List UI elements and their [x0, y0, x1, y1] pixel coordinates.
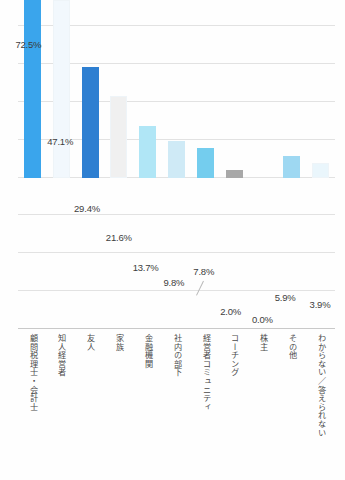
- value-label: 3.9%: [310, 300, 331, 310]
- gridline: [18, 214, 335, 215]
- bar: [53, 0, 70, 178]
- category-label: 友人: [85, 334, 94, 351]
- category-label: 株主: [258, 334, 267, 351]
- bar: [110, 96, 127, 178]
- leader-line-icon: [196, 281, 204, 296]
- bar: [283, 156, 300, 178]
- value-label: 5.9%: [275, 293, 296, 303]
- gridline: [18, 290, 335, 291]
- category-label: 経営者コミュニティ: [200, 334, 209, 411]
- value-label: 47.1%: [47, 137, 73, 147]
- bar: [82, 67, 99, 178]
- value-label: 7.8%: [193, 267, 214, 277]
- value-label: 0.0%: [252, 315, 273, 325]
- category-label: わからない／答えられない: [316, 334, 325, 437]
- category-label: 知人経営者: [56, 334, 65, 377]
- category-label: 社内の部下: [172, 334, 181, 377]
- value-label: 13.7%: [133, 263, 159, 273]
- category-axis: 顧問税理士・会計士知人経営者友人家族金融機関社内の部下経営者コミュニティコーチン…: [0, 334, 345, 480]
- category-label: コーチング: [229, 334, 238, 377]
- value-label: 21.6%: [106, 233, 132, 243]
- value-label: 72.5%: [15, 40, 41, 50]
- bar: [312, 163, 329, 178]
- category-label: 金融機関: [143, 334, 152, 368]
- bar-chart: 72.5%47.1%29.4%21.6%13.7%9.8%7.8%2.0%0.0…: [0, 0, 345, 480]
- category-label: その他: [287, 334, 296, 360]
- bar: [197, 148, 214, 178]
- value-label: 2.0%: [220, 307, 241, 317]
- plot-area: 72.5%47.1%29.4%21.6%13.7%9.8%7.8%2.0%0.0…: [0, 0, 345, 330]
- bar: [139, 126, 156, 178]
- value-label: 29.4%: [74, 204, 100, 214]
- value-label: 9.8%: [164, 278, 185, 288]
- category-label: 顧問税理士・会計士: [27, 334, 36, 411]
- axis-baseline: [18, 328, 335, 329]
- gridline: [18, 252, 335, 253]
- bar: [226, 170, 243, 178]
- bar: [24, 0, 41, 178]
- bar: [168, 141, 185, 178]
- category-label: 家族: [114, 334, 123, 351]
